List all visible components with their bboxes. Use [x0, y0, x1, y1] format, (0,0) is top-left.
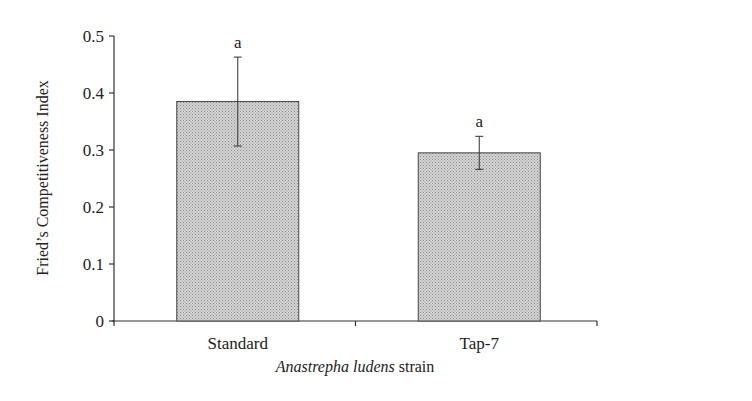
y-axis-label: Fried’s Competitiveness Index: [34, 80, 52, 276]
x-tick-label: Tap-7: [460, 334, 500, 353]
x-axis-label-italic: Anastrepha ludens: [275, 358, 395, 376]
significance-letter: a: [234, 33, 242, 52]
bars: aStandardaTap-7: [177, 33, 541, 353]
significance-letter: a: [475, 112, 483, 131]
x-axis-label-rest: strain: [395, 358, 435, 375]
y-tick-label: 0: [96, 312, 105, 331]
y-tick-label: 0.2: [83, 198, 104, 217]
x-tick-label: Standard: [208, 334, 269, 353]
bar-chart: 00.10.20.30.40.5 aStandardaTap-7 Fried’s…: [0, 0, 752, 401]
y-tick-label: 0.4: [83, 84, 105, 103]
y-tick-label: 0.1: [83, 255, 104, 274]
x-axis-label: Anastrepha ludens strain: [275, 358, 435, 376]
bar-tap-7: [418, 153, 540, 321]
y-tick-label: 0.5: [83, 27, 104, 46]
y-tick-label: 0.3: [83, 141, 104, 160]
